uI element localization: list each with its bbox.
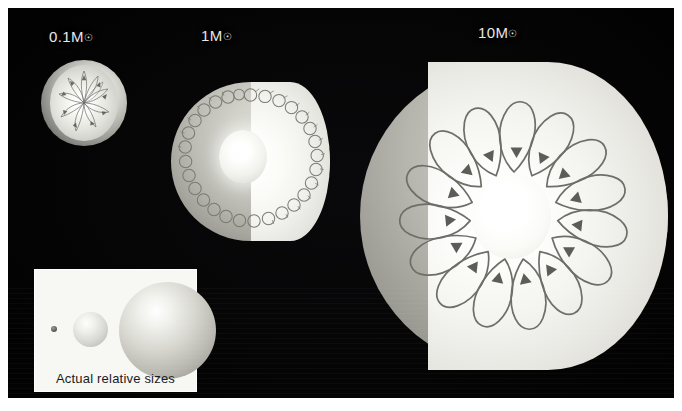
mass-label-10-value: 10M <box>478 24 508 41</box>
stellar-structure-figure: 0.1M☉ <box>0 0 682 411</box>
inset-caption: Actual relative sizes <box>35 371 196 386</box>
star-diagram-0.1-msun <box>41 60 127 146</box>
solar-mass-symbol-icon: ☉ <box>84 32 93 43</box>
figure-panel: 0.1M☉ <box>8 8 674 398</box>
mass-label-1-value: 1M <box>201 27 223 44</box>
mass-label-10-msun: 10M☉ <box>478 24 518 41</box>
inset-sphere-medium <box>73 312 108 347</box>
inset-sphere-small <box>51 326 57 332</box>
mass-label-0.1-msun: 0.1M☉ <box>49 28 93 45</box>
star-diagram-1-msun <box>171 82 330 241</box>
star-diagram-10-msun <box>360 62 668 370</box>
solar-mass-symbol-icon: ☉ <box>223 31 232 42</box>
convective-core-10 <box>471 173 551 259</box>
mass-label-1-msun: 1M☉ <box>201 27 232 44</box>
relative-sizes-inset: Actual relative sizes <box>35 270 196 391</box>
inset-sphere-large <box>119 282 216 379</box>
core-glow-0.1 <box>70 91 96 117</box>
core-glow-1 <box>228 139 253 164</box>
mass-label-0.1-value: 0.1M <box>49 28 84 45</box>
solar-mass-symbol-icon: ☉ <box>508 28 517 39</box>
